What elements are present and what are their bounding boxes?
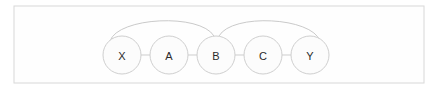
node-label-c: C bbox=[259, 50, 267, 62]
node-label-b: B bbox=[212, 50, 220, 62]
node-label-y: Y bbox=[306, 50, 314, 62]
node-c[interactable]: C bbox=[244, 36, 282, 74]
node-label-a: A bbox=[165, 50, 173, 62]
node-b[interactable]: B bbox=[197, 36, 235, 74]
diagram-canvas: X A B C Y bbox=[0, 0, 438, 92]
graph-svg: X A B C Y bbox=[0, 0, 438, 92]
node-a[interactable]: A bbox=[150, 36, 188, 74]
node-label-x: X bbox=[118, 50, 126, 62]
node-y[interactable]: Y bbox=[291, 36, 329, 74]
node-x[interactable]: X bbox=[103, 36, 141, 74]
